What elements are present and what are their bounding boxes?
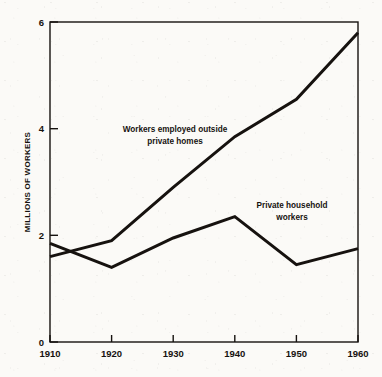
x-tick-label-1940: 1940 — [224, 348, 245, 359]
series-line-private-household-workers — [50, 217, 358, 268]
x-tick-label-1910: 1910 — [39, 348, 60, 359]
y-tick-label-6: 6 — [39, 17, 44, 28]
annotation-upper-series: Workers employed outside private homes — [123, 125, 228, 146]
y-tick-label-4: 4 — [39, 123, 45, 134]
annotation-lower-series-line2: workers — [275, 213, 308, 222]
annotation-lower-series: Private household workers — [257, 201, 328, 222]
y-tick-label-0: 0 — [39, 337, 44, 348]
x-tick-label-1960: 1960 — [347, 348, 368, 359]
annotation-upper-series-line1: Workers employed outside — [123, 125, 228, 134]
y-tick-label-2: 2 — [39, 230, 44, 241]
x-tick-label-1920: 1920 — [101, 348, 122, 359]
line-chart-svg: 6 4 2 0 1910 1920 1930 1940 1950 1960 MI… — [0, 0, 382, 377]
x-tick-label-1950: 1950 — [286, 348, 307, 359]
series-line-workers-outside-private-homes — [50, 33, 358, 257]
y-axis-ticks — [50, 22, 58, 342]
annotation-lower-series-line1: Private household — [257, 201, 328, 210]
x-axis-ticks — [50, 335, 358, 342]
y-axis-title: MILLIONS OF WORKERS — [23, 131, 32, 232]
plot-frame — [50, 22, 358, 342]
annotation-upper-series-line2: private homes — [147, 137, 203, 146]
x-tick-label-1930: 1930 — [163, 348, 184, 359]
